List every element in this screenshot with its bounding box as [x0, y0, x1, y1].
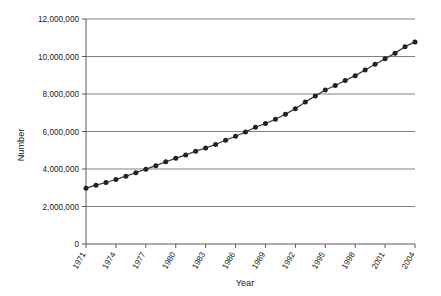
x-tick-label: 1995: [310, 250, 327, 271]
data-point: [273, 117, 278, 122]
data-point: [163, 159, 168, 164]
data-point: [203, 146, 208, 151]
data-point: [413, 39, 418, 44]
data-point: [193, 149, 198, 154]
y-tick-label: 6,000,000: [43, 128, 80, 137]
data-point: [183, 152, 188, 157]
x-tick-label: 1983: [190, 250, 207, 271]
x-tick-label: 1992: [280, 250, 297, 271]
data-point: [243, 130, 248, 135]
data-point: [143, 167, 148, 172]
x-tick-label: 1998: [340, 250, 357, 271]
data-point: [333, 83, 338, 88]
data-point: [133, 170, 138, 175]
data-point: [263, 121, 268, 126]
data-point: [233, 134, 238, 139]
svg-text:Year: Year: [236, 278, 255, 288]
x-tick-label: 1977: [131, 250, 148, 271]
y-tick-label: 4,000,000: [43, 165, 80, 174]
y-axis-ticks: [82, 19, 86, 244]
data-point: [403, 44, 408, 49]
x-tick-label: 1974: [101, 250, 118, 271]
data-point: [113, 177, 118, 182]
x-axis-title: Year: [236, 278, 255, 288]
data-point: [173, 156, 178, 161]
data-point: [103, 180, 108, 185]
x-tick-label: 1980: [161, 250, 178, 271]
data-point: [373, 62, 378, 67]
x-tick-label: 2004: [400, 250, 417, 271]
data-point: [123, 174, 128, 179]
data-point: [363, 68, 368, 73]
data-point: [313, 93, 318, 98]
data-point: [93, 183, 98, 188]
x-tick-label: 1989: [250, 250, 267, 271]
data-point: [353, 73, 358, 78]
data-point: [253, 125, 258, 130]
data-point: [393, 51, 398, 56]
data-point: [293, 106, 298, 111]
y-tick-label: 2,000,000: [43, 203, 80, 212]
x-tick-label: 1971: [71, 250, 88, 271]
y-tick-label: 0: [74, 240, 79, 249]
chart-figure: 02,000,0004,000,0006,000,0008,000,00010,…: [0, 0, 441, 296]
data-point: [283, 112, 288, 117]
x-axis-tick-labels: 1971197419771980198319861989199219951998…: [71, 250, 417, 271]
data-point: [303, 100, 308, 105]
y-axis-tick-labels: 02,000,0004,000,0006,000,0008,000,00010,…: [38, 15, 79, 249]
data-point: [383, 56, 388, 61]
line-chart: 02,000,0004,000,0006,000,0008,000,00010,…: [0, 0, 441, 296]
y-tick-label: 8,000,000: [43, 90, 80, 99]
x-tick-label: 1986: [220, 250, 237, 271]
data-point: [213, 142, 218, 147]
svg-text:Number: Number: [16, 129, 26, 162]
y-axis-title: Number: [16, 129, 26, 162]
data-point: [343, 78, 348, 83]
data-point: [223, 138, 228, 143]
y-tick-label: 10,000,000: [38, 53, 79, 62]
x-tick-label: 2001: [370, 250, 387, 271]
data-point: [153, 163, 158, 168]
x-axis-ticks: [86, 244, 415, 248]
data-point: [323, 88, 328, 93]
y-tick-label: 12,000,000: [38, 15, 79, 24]
data-point: [84, 186, 89, 191]
